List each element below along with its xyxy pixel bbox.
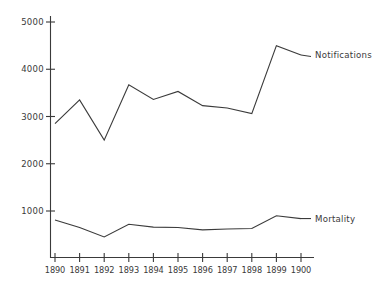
x-tick-label: 1894 <box>143 266 163 274</box>
x-tick-label: 1891 <box>69 266 89 274</box>
series-leader-notifications <box>301 55 311 57</box>
y-tick-label: 3000 <box>21 113 44 122</box>
data-series-group <box>55 46 301 237</box>
x-tick-label: 1899 <box>266 266 286 274</box>
x-tick-label: 1897 <box>217 266 237 274</box>
x-tick-label: 1900 <box>291 266 311 274</box>
x-tick-label: 1896 <box>192 266 212 274</box>
x-tick-label: 1893 <box>119 266 139 274</box>
x-tick-label: 1892 <box>94 266 114 274</box>
series-line-notifications <box>55 46 301 141</box>
series-leader-lines <box>301 55 311 218</box>
y-tick-label: 5000 <box>21 18 44 27</box>
y-tick-label: 1000 <box>21 207 44 216</box>
y-tick-label: 2000 <box>21 160 44 169</box>
y-tick-label: 4000 <box>21 65 44 74</box>
series-label-notifications: Notifications <box>315 51 372 60</box>
x-tick-label: 1890 <box>45 266 65 274</box>
x-tick-label: 1898 <box>242 266 262 274</box>
series-label-mortality: Mortality <box>315 215 355 224</box>
series-line-mortality <box>55 216 301 237</box>
x-tick-label: 1895 <box>168 266 188 274</box>
